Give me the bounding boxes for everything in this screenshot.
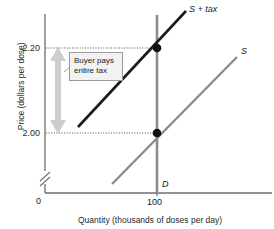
equilibrium-point-no-tax[interactable] xyxy=(153,129,162,138)
supply-curve[interactable] xyxy=(112,57,237,184)
x-tick-label-100: 100 xyxy=(147,198,162,207)
y-tick-label-200: 2.00 xyxy=(10,129,40,138)
y-axis-break-icon xyxy=(40,172,50,186)
chart-plot-area xyxy=(0,0,274,229)
supply-demand-tax-chart: Price (dollars per dose) Quantity (thous… xyxy=(0,0,274,229)
y-tick-label-220: 2.20 xyxy=(10,44,40,53)
supply-curve-label: S xyxy=(241,47,247,56)
tax-gap-arrow xyxy=(50,47,66,134)
demand-curve-label: D xyxy=(162,180,169,189)
equilibrium-point-with-tax[interactable] xyxy=(153,44,162,53)
x-axis-title: Quantity (thousands of doses per day) xyxy=(78,216,222,225)
tax-incidence-callout: Buyer pays entire tax xyxy=(69,52,123,81)
supply-plus-tax-curve-label: S + tax xyxy=(189,5,217,14)
origin-label: 0 xyxy=(36,197,41,206)
